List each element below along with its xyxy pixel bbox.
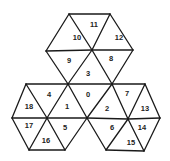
edge-L-P <box>65 118 87 150</box>
triangle-label-8: 8 <box>109 54 113 63</box>
edge-Q-R <box>106 150 144 151</box>
edge-G-L <box>68 84 87 118</box>
triangle-label-12: 12 <box>115 33 123 42</box>
triangle-label-18: 18 <box>25 102 33 111</box>
triangle-label-7: 7 <box>125 89 129 98</box>
triangle-label-4: 4 <box>47 90 52 99</box>
triangle-label-0: 0 <box>86 90 90 99</box>
edge-M-N <box>128 118 160 119</box>
triangle-label-5: 5 <box>63 123 67 132</box>
hexagon-triangle-diagram: 0123456789101112131415161718 <box>0 0 170 161</box>
edge-I-N <box>145 84 160 118</box>
triangle-label-16: 16 <box>42 136 50 145</box>
triangle-label-14: 14 <box>138 123 147 132</box>
edge-E-H <box>112 50 133 84</box>
edge-L-Q <box>87 118 106 150</box>
edge-C-G <box>46 51 68 84</box>
triangle-label-9: 9 <box>67 56 71 65</box>
triangle-label-13: 13 <box>141 104 149 113</box>
triangle-label-15: 15 <box>127 138 135 147</box>
triangle-label-1: 1 <box>65 102 69 111</box>
edge-C-D <box>46 50 92 51</box>
edge-D-G <box>68 50 92 84</box>
edge-L-M <box>87 118 128 119</box>
triangle-label-10: 10 <box>73 33 81 42</box>
triangle-label-17: 17 <box>25 121 33 130</box>
triangle-label-3: 3 <box>86 69 90 78</box>
edge-I-M <box>128 84 145 119</box>
edge-A-C <box>46 14 69 51</box>
edge-N-R <box>144 118 160 151</box>
edge-H-L <box>87 84 112 118</box>
triangle-labels: 0123456789101112131415161718 <box>25 20 149 147</box>
triangle-label-11: 11 <box>90 20 98 29</box>
triangle-label-6: 6 <box>110 123 114 132</box>
triangle-label-2: 2 <box>105 104 109 113</box>
